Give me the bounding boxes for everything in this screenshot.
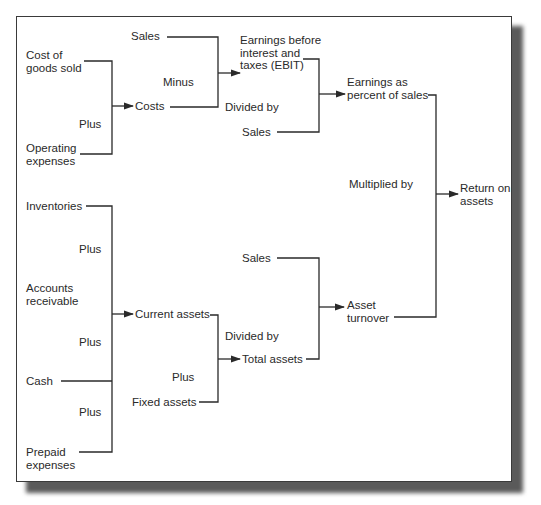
label-cost-of-goods-sold: Cost of goods sold	[26, 49, 82, 74]
label-fixed-assets: Fixed assets	[132, 396, 197, 409]
bracket-costs	[80, 61, 133, 154]
label-divided-by: Divided by	[225, 101, 279, 114]
label-prepaid-expenses: Prepaid expenses	[26, 446, 75, 471]
bracket-asset-turnover	[277, 258, 344, 359]
label-operating-expenses: Operating expenses	[26, 142, 77, 167]
label-plus: Plus	[172, 371, 194, 384]
label-current-assets: Current assets	[135, 308, 210, 321]
bracket-ebit	[167, 37, 240, 107]
label-plus: Plus	[79, 336, 101, 349]
label-accounts-receivable: Accounts receivable	[26, 282, 78, 307]
label-cash: Cash	[26, 375, 53, 388]
label-costs: Costs	[135, 100, 164, 113]
label-plus: Plus	[79, 118, 101, 131]
label-minus: Minus	[163, 76, 194, 89]
label-plus: Plus	[79, 243, 101, 256]
label-sales: Sales	[131, 30, 160, 43]
label-multiplied-by: Multiplied by	[349, 178, 413, 191]
bracket-total-assets	[199, 315, 240, 402]
label-ebit: Earnings before interest and taxes (EBIT…	[240, 34, 321, 72]
label-total-assets: Total assets	[242, 353, 303, 366]
bracket-return-on-assets	[394, 95, 458, 317]
label-return-on-assets: Return on assets	[460, 182, 511, 207]
label-divided-by: Divided by	[225, 330, 279, 343]
label-asset-turnover: Asset turnover	[347, 299, 389, 324]
label-inventories: Inventories	[26, 200, 82, 213]
label-plus: Plus	[79, 406, 101, 419]
label-sales: Sales	[242, 252, 271, 265]
label-earnings-as-percent-of-sales: Earnings as percent of sales	[347, 76, 428, 101]
label-sales: Sales	[242, 126, 271, 139]
